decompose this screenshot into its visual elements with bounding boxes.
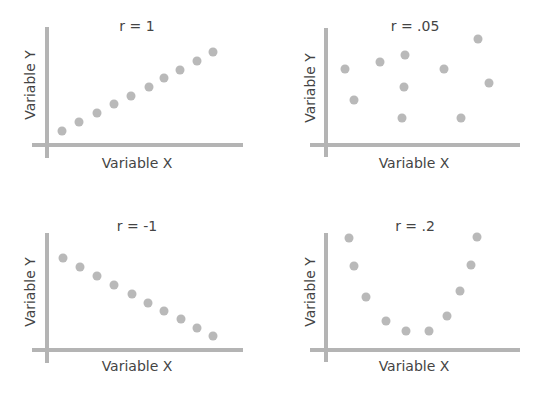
data-point [473,233,482,242]
data-point [144,299,153,308]
chart-title-r-02: r = .2 [395,218,435,234]
data-point [400,83,409,92]
x-axis-label: Variable X [102,155,173,171]
data-point [209,48,218,57]
scatter-plots-canvas [0,0,540,395]
data-point [398,114,407,123]
data-point [425,327,434,336]
x-axis-label: Variable X [379,155,450,171]
data-point [345,234,354,243]
data-point [402,327,411,336]
data-point [456,287,465,296]
y-axis-label: Variable Y [22,257,38,327]
data-point [474,35,483,44]
data-point [93,109,102,118]
chart-title-r-1: r = 1 [119,18,154,34]
x-axis-label: Variable X [102,358,173,374]
data-point [160,307,169,316]
data-point [177,315,186,324]
data-point [176,66,185,75]
scatter-chart-2 [32,233,243,363]
data-point [209,332,218,341]
data-point [467,261,476,270]
chart-title-r-05: r = .05 [391,18,440,34]
y-axis-label: Variable Y [302,257,318,327]
data-point [128,290,137,299]
data-point [401,51,410,60]
data-point [443,312,452,321]
data-point [362,293,371,302]
data-point [382,317,391,326]
data-point [59,254,68,263]
data-point [58,127,67,136]
data-point [110,100,119,109]
scatter-chart-1 [310,28,520,157]
data-point [145,83,154,92]
y-axis-label: Variable Y [302,53,318,123]
data-point [485,79,494,88]
data-point [440,65,449,74]
data-point [341,65,350,74]
data-point [160,74,169,83]
scatter-chart-3 [310,233,520,363]
chart-title-r-neg-1: r = -1 [117,218,157,234]
data-point [350,262,359,271]
scatter-chart-0 [32,27,243,158]
data-point [457,114,466,123]
data-point [93,272,102,281]
data-point [193,57,202,66]
data-point [350,96,359,105]
data-point [110,281,119,290]
y-axis-label: Variable Y [22,50,38,120]
data-point [376,58,385,67]
x-axis-label: Variable X [379,358,450,374]
data-point [76,263,85,272]
data-point [75,118,84,127]
data-point [193,324,202,333]
data-point [127,92,136,101]
